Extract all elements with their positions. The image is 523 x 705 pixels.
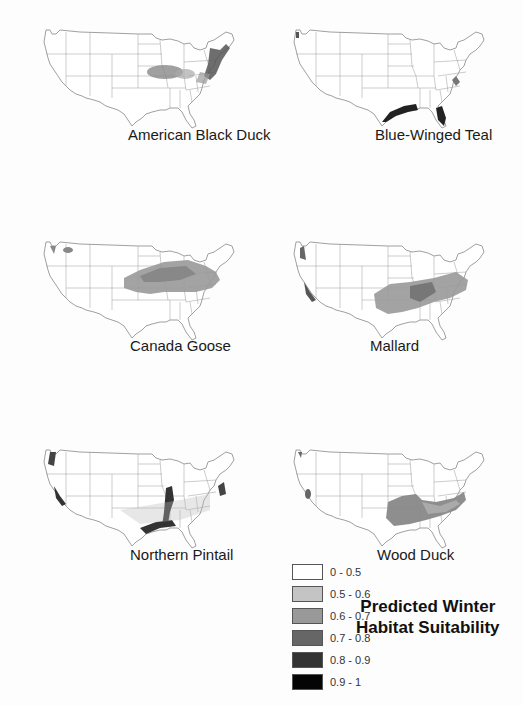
figure-title: Predicted Winter Habitat Suitability [356, 596, 500, 638]
legend-swatch [292, 674, 323, 690]
map-label: Mallard [370, 337, 419, 354]
map-label: Canada Goose [130, 337, 231, 354]
legend-label: 0.8 - 0.9 [330, 654, 370, 666]
legend-label: 0 - 0.5 [330, 566, 361, 578]
us-map [20, 222, 260, 342]
us-map [20, 430, 260, 550]
us-map [20, 10, 260, 130]
legend-item: 0.9 - 1 [292, 671, 370, 693]
legend-swatch [292, 586, 323, 602]
map-label: Blue-Winged Teal [375, 126, 492, 143]
legend-swatch [292, 652, 323, 668]
legend-item: 0 - 0.5 [292, 561, 370, 583]
map-label: Wood Duck [377, 546, 454, 563]
map-label: Northern Pintail [130, 546, 233, 563]
figure-title-line1: Predicted Winter [356, 596, 500, 617]
legend-item: 0.8 - 0.9 [292, 649, 370, 671]
figure-title-line2: Habitat Suitability [356, 617, 500, 638]
legend-label: 0.9 - 1 [330, 676, 361, 688]
us-map [270, 430, 510, 550]
us-map [270, 10, 510, 130]
legend-swatch [292, 564, 323, 580]
us-map [270, 222, 510, 342]
map-label: American Black Duck [128, 126, 271, 143]
legend-swatch [292, 630, 323, 646]
legend-swatch [292, 608, 323, 624]
